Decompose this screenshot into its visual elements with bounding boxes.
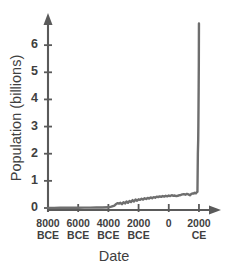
- y-tick-label: 3: [22, 119, 38, 133]
- x-tick-top: 2000: [127, 217, 150, 229]
- x-tick-top: 6000: [67, 217, 90, 229]
- x-tick-bottom: BCE: [37, 229, 59, 241]
- x-tick-bottom: CE: [192, 229, 207, 241]
- x-tick-top: 0: [166, 217, 172, 229]
- x-tick-top: 4000: [97, 217, 120, 229]
- y-tick-label: 5: [22, 64, 38, 78]
- x-tick-bottom: BCE: [97, 229, 119, 241]
- x-tick-bottom: BCE: [127, 229, 149, 241]
- x-axis-arrowhead: [209, 206, 221, 215]
- y-axis-arrowhead: [44, 13, 53, 25]
- x-tick-top: 2000: [187, 217, 210, 229]
- y-tick-label: 2: [22, 146, 38, 160]
- x-tick-top: 8000: [36, 217, 59, 229]
- y-tick-label: 1: [22, 173, 38, 187]
- population-line: [48, 23, 199, 207]
- data-group: [48, 23, 199, 207]
- population-chart: Population (billions) Date 0123456 8000B…: [0, 0, 228, 273]
- x-tick-bottom: BCE: [67, 229, 89, 241]
- y-tick-label: 4: [22, 91, 38, 105]
- y-tick-label: 6: [22, 37, 38, 51]
- x-tick-label: 2000CE: [179, 218, 219, 241]
- x-axis-title: Date: [0, 248, 228, 264]
- axes-group: [44, 13, 222, 215]
- y-tick-label: 0: [22, 200, 38, 214]
